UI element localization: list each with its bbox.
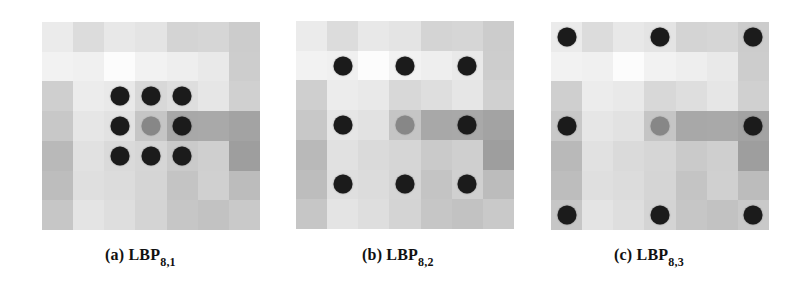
pixel-cell (327, 199, 358, 229)
pixel-cell (167, 52, 198, 82)
neighbor-sample-dot (110, 146, 129, 165)
pixel-cell (198, 111, 229, 141)
pixel-cell (707, 141, 738, 171)
center-pixel-dot (396, 116, 415, 135)
pixel-cell (644, 171, 675, 201)
pixel-cell (707, 81, 738, 111)
caption-c-subscript: 8,3 (668, 255, 684, 269)
pixel-cell (42, 141, 73, 171)
caption-b-label: (b) LBP (362, 246, 418, 263)
pixel-cell (421, 80, 452, 110)
pixel-cell (358, 80, 389, 110)
pixel-cell (644, 141, 675, 171)
pixel-cell (73, 200, 104, 230)
pixel-cell (42, 22, 73, 52)
pixel-cell (421, 140, 452, 170)
pixel-cell (327, 80, 358, 110)
pixel-cell (167, 22, 198, 52)
pixel-cell (229, 171, 260, 201)
pixel-cell (296, 21, 327, 51)
pixel-cell (452, 21, 483, 51)
pixel-cell (483, 199, 514, 229)
pixel-cell (582, 141, 613, 171)
neighbor-sample-dot (142, 146, 161, 165)
neighbor-sample-dot (333, 56, 352, 75)
caption-b: (b) LBP8,2 (362, 246, 434, 264)
pixel-cell (551, 81, 582, 111)
caption-a-subscript: 8,1 (160, 255, 176, 269)
caption-c: (c) LBP8,3 (614, 246, 684, 264)
neighbor-sample-dot (458, 56, 477, 75)
pixel-cell (644, 81, 675, 111)
pixel-cell (613, 81, 644, 111)
pixel-cell (104, 52, 135, 82)
pixel-cell (738, 81, 769, 111)
pixel-cell (613, 141, 644, 171)
neighbor-sample-dot (458, 116, 477, 135)
pixel-cell (135, 52, 166, 82)
pixel-cell (73, 111, 104, 141)
pixel-cell (167, 200, 198, 230)
neighbor-sample-dot (110, 117, 129, 136)
neighbor-sample-dot (458, 175, 477, 194)
caption-a: (a) LBP8,1 (105, 246, 176, 264)
pixel-cell (327, 140, 358, 170)
pixel-cell (582, 52, 613, 82)
pixel-cell (421, 110, 452, 140)
pixel-cell (452, 80, 483, 110)
pixel-cell (167, 171, 198, 201)
neighbor-sample-dot (744, 27, 763, 46)
pixel-cell (738, 141, 769, 171)
pixel-cell (707, 171, 738, 201)
neighbor-sample-dot (110, 87, 129, 106)
neighbor-sample-dot (651, 27, 670, 46)
pixel-cell (73, 81, 104, 111)
pixel-cell (582, 200, 613, 230)
pixel-cell (198, 141, 229, 171)
neighbor-sample-dot (333, 175, 352, 194)
pixel-cell (73, 22, 104, 52)
caption-a-label: (a) LBP (105, 246, 160, 263)
pixel-cell (198, 171, 229, 201)
neighbor-sample-dot (142, 87, 161, 106)
pixel-cell (676, 171, 707, 201)
pixel-cell (296, 110, 327, 140)
pixel-cell (42, 200, 73, 230)
pixel-cell (676, 111, 707, 141)
neighbor-sample-dot (744, 206, 763, 225)
pixel-cell (676, 200, 707, 230)
pixel-cell (358, 110, 389, 140)
pixel-cell (42, 111, 73, 141)
neighbor-sample-dot (396, 56, 415, 75)
pixel-cell (613, 171, 644, 201)
neighbor-sample-dot (173, 87, 192, 106)
pixel-cell (551, 171, 582, 201)
caption-b-subscript: 8,2 (418, 255, 434, 269)
pixel-cell (198, 52, 229, 82)
pixel-cell (42, 52, 73, 82)
pixel-cell (358, 21, 389, 51)
pixel-cell (738, 52, 769, 82)
pixel-cell (198, 81, 229, 111)
center-pixel-dot (651, 117, 670, 136)
pixel-cell (73, 141, 104, 171)
pixel-cell (104, 22, 135, 52)
pixel-cell (613, 52, 644, 82)
pixel-cell (707, 22, 738, 52)
pixel-cell (73, 52, 104, 82)
pixel-cell (389, 80, 420, 110)
pixel-cell (613, 111, 644, 141)
neighbor-sample-dot (557, 117, 576, 136)
pixel-cell (613, 200, 644, 230)
pixel-cell (452, 199, 483, 229)
pixel-cell (483, 51, 514, 81)
pixel-cell (198, 22, 229, 52)
pixel-cell (198, 200, 229, 230)
pixel-cell (551, 52, 582, 82)
pixel-cell (483, 21, 514, 51)
pixel-cell (358, 199, 389, 229)
pixel-cell (104, 200, 135, 230)
pixel-cell (358, 51, 389, 81)
pixel-cell (582, 22, 613, 52)
neighbor-sample-dot (744, 117, 763, 136)
